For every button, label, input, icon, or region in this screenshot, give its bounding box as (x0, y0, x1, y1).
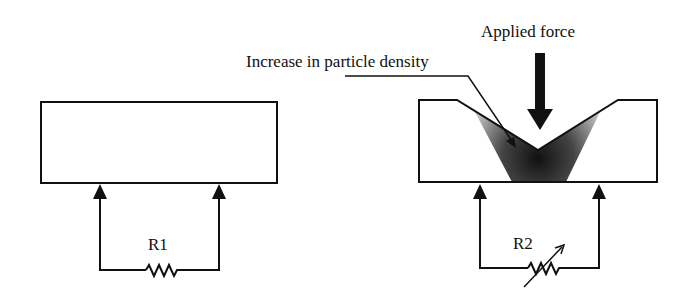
right-circuit (473, 184, 606, 287)
left-circuit (93, 184, 226, 276)
applied-force-label: Applied force (481, 22, 575, 41)
left-specimen (41, 102, 277, 183)
resistor-r1 (146, 265, 180, 276)
density-label: Increase in particle density (246, 52, 429, 71)
applied-force-arrow (527, 53, 553, 130)
r1-label: R1 (148, 235, 168, 254)
diagram-canvas: R1 Applied force Increase in particle de… (0, 0, 690, 307)
r2-label: R2 (513, 234, 533, 253)
